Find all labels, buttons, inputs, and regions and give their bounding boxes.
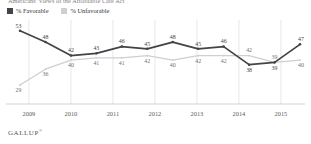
gallup-footer: GALLUP®: [8, 128, 43, 137]
x-tick-label-2013: 2013: [191, 110, 204, 117]
value-label-unfavorable-8: 42: [221, 58, 227, 64]
data-point-unfavorable-8: [223, 55, 225, 57]
data-point-favorable-2: [70, 54, 73, 57]
data-point-favorable-7: [197, 48, 200, 51]
data-point-unfavorable-5: [146, 55, 148, 57]
plot-area: 5348424346454845463839472936404141424042…: [0, 18, 311, 110]
data-point-favorable-10: [273, 61, 276, 64]
x-tick-label-2011: 2011: [107, 110, 120, 117]
chart-title-cropped: Americans' Views of the Affordable Care …: [8, 0, 303, 3]
legend-item-favorable: % Favorable: [7, 7, 48, 14]
x-axis: 2009201020112012201320142015: [0, 110, 311, 122]
legend-swatch-favorable: [7, 8, 13, 14]
value-label-favorable-11: 47: [298, 36, 304, 42]
value-label-unfavorable-11: 40: [298, 62, 304, 68]
value-label-unfavorable-6: 40: [170, 62, 176, 68]
value-label-unfavorable-7: 42: [195, 58, 201, 64]
registered-mark: ®: [39, 128, 43, 133]
data-point-favorable-9: [248, 63, 251, 65]
value-label-favorable-3: 43: [93, 45, 99, 51]
value-label-unfavorable-0: 29: [16, 87, 22, 93]
value-label-favorable-5: 45: [144, 41, 150, 47]
legend-item-unfavorable: % Unfavorable: [61, 7, 109, 14]
value-label-favorable-6: 48: [170, 34, 176, 40]
chart-canvas: 5348424346454845463839472936404141424042…: [0, 18, 311, 110]
data-point-favorable-1: [44, 41, 47, 44]
value-label-favorable-4: 46: [119, 38, 125, 44]
value-label-unfavorable-2: 40: [68, 62, 74, 68]
data-point-favorable-0: [19, 30, 22, 33]
x-tick-label-2012: 2012: [149, 110, 162, 117]
legend-label-favorable: % Favorable: [16, 7, 48, 14]
data-point-favorable-6: [171, 41, 174, 44]
x-tick-label-2014: 2014: [233, 110, 246, 117]
chart-legend: % Favorable % Unfavorable: [7, 7, 109, 14]
value-label-unfavorable-1: 36: [43, 71, 49, 77]
chart-figure: Americans' Views of the Affordable Care …: [0, 0, 311, 144]
data-point-favorable-4: [121, 45, 124, 48]
value-label-favorable-8: 46: [221, 38, 227, 44]
x-tick-label-2015: 2015: [275, 110, 288, 117]
value-label-favorable-7: 45: [195, 41, 201, 47]
value-label-unfavorable-3: 41: [93, 60, 99, 66]
data-point-unfavorable-9: [248, 55, 250, 57]
value-label-favorable-1: 48: [43, 34, 49, 40]
data-point-unfavorable-11: [299, 59, 301, 61]
value-label-favorable-0: 53: [16, 23, 22, 29]
data-point-favorable-3: [95, 52, 98, 55]
value-label-favorable-10: 39: [272, 65, 278, 71]
legend-swatch-unfavorable: [61, 8, 67, 14]
data-point-unfavorable-1: [45, 68, 47, 70]
value-label-favorable-9: 38: [246, 67, 252, 73]
value-label-unfavorable-4: 41: [119, 60, 125, 66]
data-point-favorable-5: [146, 48, 149, 51]
series-line-favorable: [20, 31, 300, 65]
data-point-unfavorable-4: [121, 57, 123, 59]
data-point-unfavorable-6: [172, 59, 174, 61]
gallup-wordmark: GALLUP: [8, 129, 39, 137]
legend-label-unfavorable: % Unfavorable: [70, 7, 109, 14]
x-tick-label-2010: 2010: [65, 110, 78, 117]
value-label-unfavorable-5: 42: [144, 58, 150, 64]
data-point-unfavorable-0: [19, 84, 21, 86]
data-point-favorable-8: [222, 45, 225, 48]
x-tick-label-2009: 2009: [23, 110, 36, 117]
value-label-unfavorable-10: 39: [272, 54, 278, 60]
data-point-favorable-11: [299, 43, 302, 46]
data-point-unfavorable-3: [95, 57, 97, 59]
series-line-unfavorable: [20, 56, 300, 85]
data-point-unfavorable-2: [70, 59, 72, 61]
value-label-favorable-2: 42: [68, 47, 74, 53]
data-point-unfavorable-7: [197, 55, 199, 57]
value-label-unfavorable-9: 42: [246, 47, 252, 53]
